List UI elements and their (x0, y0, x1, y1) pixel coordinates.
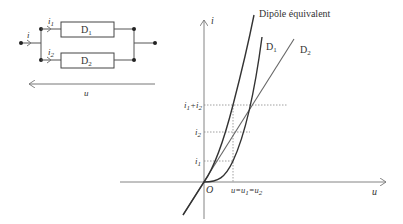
x-tick-u: u=u1=u2 (231, 185, 263, 197)
x-axis-label: u (372, 186, 377, 197)
component-label-d2: D2 (81, 55, 92, 68)
curve-label-d1: D1 (266, 41, 277, 54)
input-current-label: i (27, 30, 30, 40)
output-node (153, 41, 157, 45)
origin-label: O (206, 184, 213, 195)
node-top-right (132, 27, 136, 31)
curve-label-d2: D2 (300, 44, 311, 57)
y-tick-i2: i2 (195, 127, 202, 139)
y-axis-label: i (211, 15, 214, 26)
curve-label-equivalent: Dipôle équivalent (259, 8, 331, 19)
branch1-current-label: i1 (48, 16, 54, 28)
node-bottom-right (132, 58, 136, 62)
component-label-d1: D1 (81, 24, 92, 37)
input-node (19, 41, 23, 45)
branch2-current-label: i2 (48, 47, 55, 59)
parallel-dipoles-diagram: i i1 i2 D1 D2 u i u O Dipôle équivalent … (0, 0, 403, 224)
y-tick-i1: i1 (195, 156, 201, 168)
y-tick-i1-plus-i2: i1+i2 (184, 100, 203, 112)
voltage-label: u (84, 88, 89, 98)
